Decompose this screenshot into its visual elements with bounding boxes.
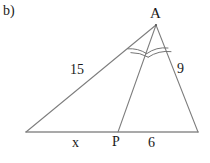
triangle-right-side (156, 25, 198, 132)
base-segment-label-x: x (72, 136, 79, 150)
angle-mark-right-double-arc (147, 48, 171, 57)
side-length-label-left: 15 (70, 63, 84, 77)
geometry-figure: b) A 15 9 x P 6 (0, 0, 210, 163)
base-segment-label-six: 6 (148, 136, 155, 150)
side-length-label-right: 9 (177, 62, 184, 76)
vertex-label-a: A (150, 6, 161, 21)
angle-mark-left-double-arc (128, 49, 148, 57)
apex-vertex-dot (155, 24, 157, 26)
part-label: b) (3, 4, 15, 18)
point-label-p: P (112, 135, 120, 149)
triangle-diagram-svg (0, 0, 210, 163)
